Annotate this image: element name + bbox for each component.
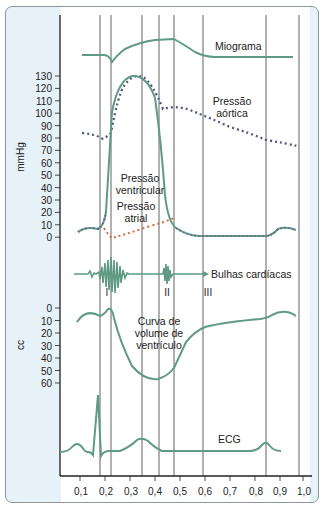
wiggers-diagram: 130 120 110 100 90 80 70 60 50 40 30 20 …: [0, 0, 326, 509]
cc-axis-label: cc: [15, 340, 26, 350]
svg-text:0,3: 0,3: [124, 486, 138, 497]
svg-text:60: 60: [41, 378, 53, 389]
svg-text:30: 30: [41, 195, 53, 206]
svg-text:0,1: 0,1: [74, 486, 88, 497]
svg-text:10: 10: [41, 316, 53, 327]
atrial-pressure-label-2: atrial: [125, 212, 148, 224]
sound-iii-label: III: [204, 287, 212, 298]
mmhg-tick-labels: 130 120 110 100 90 80 70 60 50 40 30 20 …: [35, 71, 52, 243]
heart-sounds-label: Bulhas cardíacas: [211, 268, 292, 280]
ventricular-pressure-label: Pressão: [121, 172, 160, 184]
svg-text:100: 100: [35, 108, 52, 119]
svg-text:70: 70: [41, 145, 53, 156]
heart-sounds-curve: [74, 257, 204, 293]
mmhg-ticks: [55, 76, 60, 237]
sound-ii-label: II: [164, 287, 170, 298]
mmhg-axis-label: mmHg: [15, 142, 26, 171]
svg-text:1,0: 1,0: [297, 486, 311, 497]
svg-text:10: 10: [41, 220, 53, 231]
aortic-pressure-curve: [82, 76, 297, 146]
svg-text:80: 80: [41, 133, 53, 144]
ventricular-volume-curve: [77, 309, 296, 380]
svg-text:0: 0: [46, 303, 52, 314]
x-ticks: [80, 476, 303, 481]
ventricular-pressure-label-2: ventricular: [116, 184, 165, 196]
ecg-label: ECG: [218, 433, 241, 445]
volume-label-2: volume de: [135, 327, 184, 339]
svg-text:30: 30: [41, 341, 53, 352]
miograma-label: Miograma: [215, 40, 262, 52]
svg-text:0,7: 0,7: [223, 486, 237, 497]
svg-text:130: 130: [35, 71, 52, 82]
heart-sounds-arrow: [203, 271, 209, 277]
svg-text:0: 0: [46, 232, 52, 243]
x-tick-labels: 0,1 0,2 0,3 0,4 0,5 0,6 0,7 0,8 0,9 1,0: [74, 486, 311, 497]
svg-text:50: 50: [41, 170, 53, 181]
svg-text:40: 40: [41, 353, 53, 364]
volume-label: Curva de: [138, 315, 181, 327]
aortic-pressure-label: Pressão: [213, 95, 252, 107]
svg-text:0,9: 0,9: [273, 486, 287, 497]
cc-tick-labels: 0 10 20 30 40 50 60: [41, 303, 53, 389]
cc-ticks: [55, 308, 60, 383]
aortic-pressure-label-2: aórtica: [216, 107, 248, 119]
vertical-markers: [100, 15, 299, 476]
svg-text:20: 20: [41, 207, 53, 218]
svg-text:0,2: 0,2: [99, 486, 113, 497]
svg-text:60: 60: [41, 158, 53, 169]
svg-text:0,6: 0,6: [198, 486, 212, 497]
svg-text:40: 40: [41, 183, 53, 194]
svg-text:0,5: 0,5: [173, 486, 187, 497]
svg-text:90: 90: [41, 121, 53, 132]
svg-text:0,8: 0,8: [249, 486, 263, 497]
ecg-curve: [60, 395, 281, 456]
svg-text:50: 50: [41, 366, 53, 377]
atrial-pressure-label: Pressão: [117, 200, 156, 212]
svg-text:110: 110: [36, 96, 52, 107]
sound-i-label: I: [106, 287, 109, 298]
svg-text:0,4: 0,4: [148, 486, 162, 497]
volume-label-3: ventrículo: [136, 339, 182, 351]
svg-text:120: 120: [35, 83, 52, 94]
svg-text:20: 20: [41, 328, 53, 339]
